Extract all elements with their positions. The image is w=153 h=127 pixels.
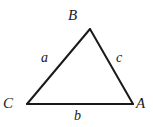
vertex-label-c: C — [3, 96, 13, 111]
side-label-a: a — [41, 51, 48, 65]
side-label-c: c — [116, 51, 122, 65]
side-c-line — [90, 29, 133, 104]
vertex-label-a: A — [136, 96, 145, 111]
side-label-b: b — [74, 109, 81, 123]
side-a-line — [27, 29, 90, 104]
triangle-outline — [27, 29, 133, 104]
vertex-label-b: B — [68, 8, 77, 23]
triangle-figure: B C A a c b — [0, 0, 153, 127]
